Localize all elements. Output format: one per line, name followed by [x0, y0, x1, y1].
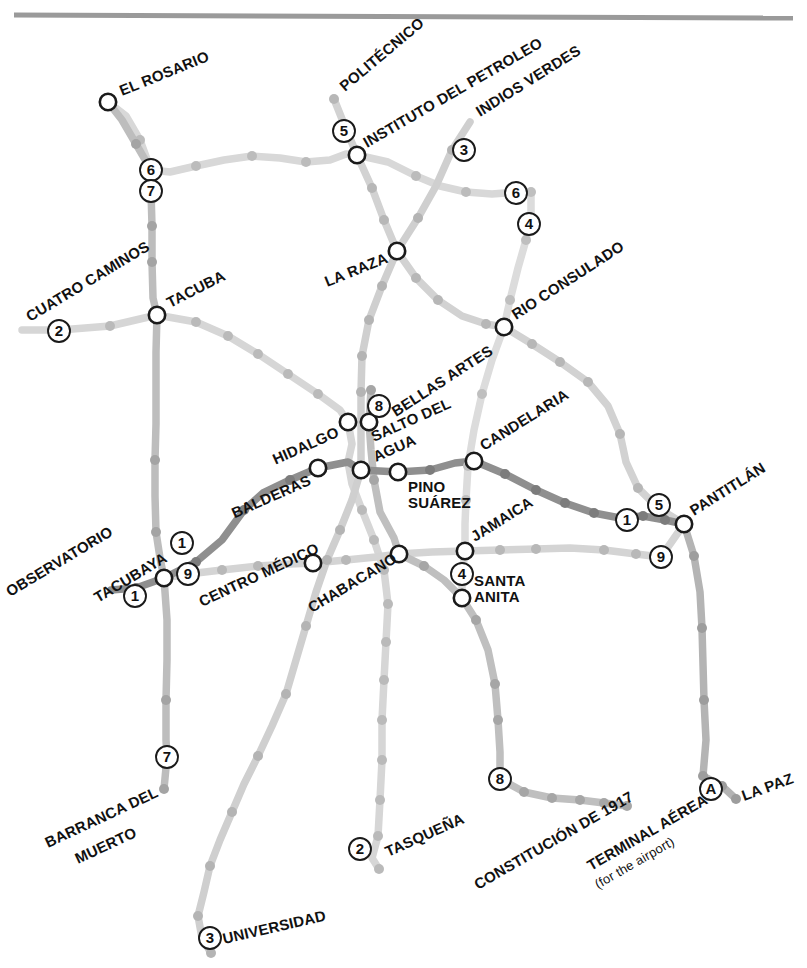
station-dot[interactable]: [369, 475, 379, 485]
station-dot[interactable]: [151, 527, 161, 537]
station-dot[interactable]: [433, 295, 443, 305]
station-dot[interactable]: [560, 498, 570, 508]
line-bullet-4[interactable]: 4: [518, 213, 540, 235]
station-dot[interactable]: [357, 351, 367, 361]
line-bullet-9[interactable]: 9: [650, 546, 672, 568]
station-dot[interactable]: [531, 485, 541, 495]
interchange-station-marker[interactable]: [340, 414, 356, 430]
interchange-station-marker[interactable]: [156, 570, 172, 586]
interchange-station-marker[interactable]: [349, 147, 365, 163]
interchange-station-marker[interactable]: [390, 464, 406, 480]
interchange-station-marker[interactable]: [457, 543, 473, 559]
station-dot[interactable]: [301, 621, 311, 631]
station-dot[interactable]: [191, 161, 201, 171]
station-dot[interactable]: [377, 755, 387, 765]
interchange-station-marker[interactable]: [454, 590, 470, 606]
station-dot[interactable]: [583, 377, 593, 387]
station-dot[interactable]: [322, 555, 332, 565]
station-dot[interactable]: [419, 561, 429, 571]
station-dot[interactable]: [500, 469, 510, 479]
station-dot[interactable]: [521, 235, 531, 245]
station-dot[interactable]: [301, 157, 311, 167]
station-dot[interactable]: [161, 695, 171, 705]
station-dot[interactable]: [697, 623, 707, 633]
line-bullet-7[interactable]: 7: [156, 746, 178, 768]
station-dot[interactable]: [547, 793, 557, 803]
line-bullet-7[interactable]: 7: [140, 180, 162, 202]
station-dot[interactable]: [131, 139, 141, 149]
station-dot[interactable]: [575, 795, 585, 805]
station-dot[interactable]: [471, 615, 481, 625]
station-dot[interactable]: [495, 545, 505, 555]
station-dot[interactable]: [281, 689, 291, 699]
line-bullet-8[interactable]: 8: [368, 395, 390, 417]
station-dot[interactable]: [461, 187, 471, 197]
station-dot[interactable]: [366, 385, 376, 395]
interchange-station-marker[interactable]: [100, 94, 116, 110]
station-dot[interactable]: [411, 273, 421, 283]
station-dot[interactable]: [227, 807, 237, 817]
station-dot[interactable]: [381, 637, 391, 647]
station-dot[interactable]: [150, 455, 160, 465]
line-bullet-1[interactable]: 1: [171, 532, 193, 554]
station-dot[interactable]: [253, 349, 263, 359]
station-dot[interactable]: [253, 751, 263, 761]
line-bullet-1[interactable]: 1: [616, 509, 638, 531]
station-dot[interactable]: [357, 505, 367, 515]
station-dot[interactable]: [329, 94, 339, 104]
line-bullet-8[interactable]: 8: [489, 768, 511, 790]
interchange-station-marker[interactable]: [496, 319, 512, 335]
interchange-station-marker[interactable]: [676, 516, 692, 532]
station-dot[interactable]: [531, 544, 541, 554]
interchange-station-marker[interactable]: [389, 243, 405, 259]
station-dot[interactable]: [356, 387, 366, 397]
station-dot[interactable]: [377, 281, 387, 291]
station-dot[interactable]: [633, 483, 643, 493]
station-dot[interactable]: [689, 551, 699, 561]
station-dot[interactable]: [223, 331, 233, 341]
station-dot[interactable]: [555, 357, 565, 367]
station-dot[interactable]: [364, 315, 374, 325]
station-dot[interactable]: [519, 787, 529, 797]
station-dot[interactable]: [638, 511, 648, 521]
line-bullet-3[interactable]: 3: [199, 927, 221, 949]
station-dot[interactable]: [159, 784, 169, 794]
interchange-station-marker[interactable]: [149, 307, 165, 323]
station-dot[interactable]: [313, 389, 323, 399]
station-dot[interactable]: [615, 429, 625, 439]
line-bullet-4[interactable]: 4: [451, 563, 473, 585]
station-dot[interactable]: [383, 599, 393, 609]
station-dot[interactable]: [147, 257, 157, 267]
station-dot[interactable]: [193, 911, 203, 921]
station-dot[interactable]: [631, 549, 641, 559]
station-dot[interactable]: [341, 555, 351, 565]
station-dot[interactable]: [699, 695, 709, 705]
station-dot[interactable]: [413, 213, 423, 223]
station-dot[interactable]: [490, 679, 500, 689]
interchange-station-marker[interactable]: [310, 460, 326, 476]
line-bullet-2[interactable]: 2: [349, 838, 371, 860]
station-dot[interactable]: [379, 675, 389, 685]
station-dot[interactable]: [731, 794, 741, 804]
interchange-station-marker[interactable]: [353, 462, 369, 478]
station-dot[interactable]: [589, 508, 599, 518]
station-dot[interactable]: [335, 525, 345, 535]
station-dot[interactable]: [283, 369, 293, 379]
station-dot[interactable]: [481, 319, 491, 329]
station-dot[interactable]: [369, 535, 379, 545]
station-dot[interactable]: [493, 715, 503, 725]
station-dot[interactable]: [105, 321, 115, 331]
line-bullet-6[interactable]: 6: [505, 182, 527, 204]
station-dot[interactable]: [367, 183, 377, 193]
station-dot[interactable]: [505, 295, 515, 305]
station-dot[interactable]: [375, 795, 385, 805]
interchange-station-marker[interactable]: [466, 453, 482, 469]
line-bullet-3[interactable]: 3: [453, 139, 475, 161]
station-dot[interactable]: [205, 861, 215, 871]
station-dot[interactable]: [411, 171, 421, 181]
station-dot[interactable]: [374, 864, 384, 874]
station-dot[interactable]: [477, 389, 487, 399]
station-dot[interactable]: [373, 831, 383, 841]
line-bullet-9[interactable]: 9: [177, 563, 199, 585]
station-dot[interactable]: [527, 339, 537, 349]
